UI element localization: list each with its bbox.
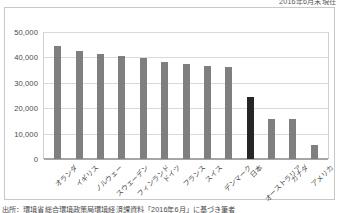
bar-スウェーデン[interactable] — [118, 56, 125, 159]
bar-フランス[interactable] — [183, 64, 190, 159]
x-slot: ドイツ — [154, 160, 175, 206]
x-slot: アメリカ — [304, 160, 325, 206]
bar-series — [43, 32, 329, 159]
bar-slot — [133, 32, 154, 159]
x-slot: ノルウェー — [90, 160, 111, 206]
bar-オーストラリア[interactable] — [268, 119, 275, 159]
bar-ノルウェー[interactable] — [97, 54, 104, 159]
x-slot: オランダ — [47, 160, 68, 206]
y-tick-label: 50,000 — [14, 28, 38, 37]
x-slot: イギリス — [68, 160, 89, 206]
x-slot: スイス — [197, 160, 218, 206]
bar-slot — [218, 32, 239, 159]
bar-slot — [304, 32, 325, 159]
x-slot: 日本 — [240, 160, 261, 206]
bar-slot — [197, 32, 218, 159]
bar-デンマーク[interactable] — [225, 67, 232, 159]
x-slot: フィンランド — [133, 160, 154, 206]
bar-ドイツ[interactable] — [161, 62, 168, 159]
header-date-note: 2016年6月末現在 — [279, 0, 336, 6]
x-tick-label-アメリカ: アメリカ — [309, 162, 336, 189]
y-tick-label: 0 — [34, 155, 38, 164]
y-tick-label: 20,000 — [14, 104, 38, 113]
bar-アメリカ[interactable] — [311, 145, 318, 159]
y-axis: 010,00020,00030,00040,00050,000 — [5, 32, 41, 159]
x-slot: カナダ — [282, 160, 303, 206]
bar-slot — [90, 32, 111, 159]
x-slot: スウェーデン — [111, 160, 132, 206]
bar-slot — [175, 32, 196, 159]
bar-slot — [240, 32, 261, 159]
x-axis-labels: オランダイギリスノルウェースウェーデンフィンランドドイツフランススイスデンマーク… — [43, 160, 329, 206]
bar-イギリス[interactable] — [76, 51, 83, 159]
source-note: 出所：環境省総合環境政策局環境経済課資料「2016年6月」に基づき筆者 — [2, 204, 236, 213]
bar-オランダ[interactable] — [54, 46, 61, 159]
bar-slot — [282, 32, 303, 159]
x-slot: オーストラリア — [261, 160, 282, 206]
chart-frame: 010,00020,00030,00040,00050,000 オランダイギリス… — [4, 7, 335, 200]
x-slot: フランス — [175, 160, 196, 206]
y-tick-label: 40,000 — [14, 53, 38, 62]
y-tick-label: 30,000 — [14, 78, 38, 87]
bar-slot — [68, 32, 89, 159]
bar-フィンランド[interactable] — [140, 58, 147, 159]
bar-slot — [261, 32, 282, 159]
bar-日本[interactable] — [247, 97, 254, 159]
x-slot: デンマーク — [218, 160, 239, 206]
bar-slot — [111, 32, 132, 159]
bar-slot — [154, 32, 175, 159]
bar-スイス[interactable] — [204, 66, 211, 159]
bar-カナダ[interactable] — [289, 119, 296, 159]
bar-slot — [47, 32, 68, 159]
y-tick-label: 10,000 — [14, 129, 38, 138]
